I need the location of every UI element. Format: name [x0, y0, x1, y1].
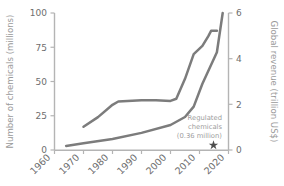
ytick-label-25: 25: [36, 111, 47, 121]
left-y-ticks: 0 25 50 75 100: [30, 8, 55, 155]
ytick-label-100: 100: [30, 8, 47, 18]
xtick-label-2020: 2020: [202, 152, 227, 177]
xtick-label-2000: 2000: [144, 152, 169, 177]
annotation-line-2: chemicals: [188, 123, 223, 131]
xtick-label-1990: 1990: [115, 152, 140, 177]
y2tick-label-6: 6: [236, 8, 242, 18]
y2tick-label-2: 2: [236, 100, 242, 110]
right-y-ticks: 0 2 4 6: [229, 8, 243, 155]
chemicals-revenue-line-chart: 0 25 50 75 100 0 2 4 6 1960 1: [0, 0, 284, 186]
star-marker-icon: [209, 140, 218, 149]
y2tick-label-4: 4: [236, 54, 242, 64]
y2tick-label-0: 0: [236, 145, 242, 155]
series-line-chemicals: [84, 31, 217, 127]
xtick-label-1980: 1980: [86, 152, 111, 177]
xtick-label-1960: 1960: [28, 152, 53, 177]
annotation-line-1: Regulated: [188, 114, 222, 122]
x-ticks: 1960 1970 1980 1990 2000 2010 2020: [28, 150, 229, 176]
xtick-label-2010: 2010: [173, 152, 198, 177]
left-axis-title: Number of chemicals (millions): [5, 15, 15, 149]
ytick-label-75: 75: [36, 43, 47, 53]
right-axis-title: Global revenue (trillion US$): [269, 21, 279, 143]
xtick-label-1970: 1970: [57, 152, 82, 177]
annotation-line-3: (0.36 million): [177, 132, 223, 140]
chart-figure: 0 25 50 75 100 0 2 4 6 1960 1: [0, 0, 284, 186]
ytick-label-50: 50: [36, 77, 48, 87]
